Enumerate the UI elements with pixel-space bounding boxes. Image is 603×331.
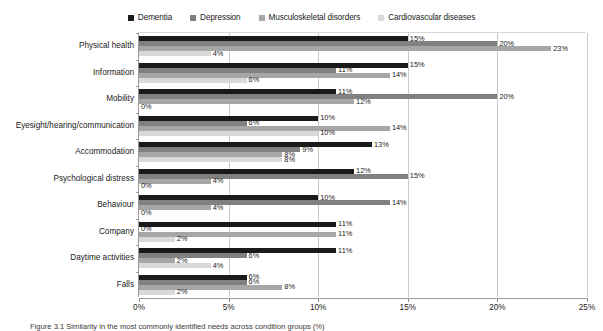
legend-swatch-icon (190, 15, 196, 21)
y-axis-tick (136, 272, 139, 273)
legend-item-musculoskeletal-disorders: Musculoskeletal disorders (259, 13, 361, 23)
y-axis-category-label: Daytime activities (70, 253, 134, 263)
x-gridline (587, 33, 588, 297)
y-axis-tick (136, 86, 139, 87)
y-axis-category-label: Company (99, 227, 134, 237)
legend-item-label: Musculoskeletal disorders (269, 13, 361, 23)
bar[interactable] (139, 51, 211, 56)
category-group: Accommodation13%9%8%8% (139, 142, 586, 162)
x-axis-tick-label: 15% (400, 303, 416, 313)
x-axis-tick-label: 20% (489, 303, 505, 313)
bar-row: 6% (139, 78, 587, 83)
bar-row: 0% (139, 184, 587, 189)
bar-row: 0% (139, 104, 587, 109)
legend-swatch-icon (259, 15, 265, 21)
x-axis-tick-label: 10% (310, 303, 326, 313)
bar-value-label: 0% (141, 103, 152, 111)
category-group: Falls6%6%8%2% (139, 275, 586, 295)
legend-item-label: Dementia (138, 13, 172, 23)
chart-legend: DementiaDepressionMusculoskeletal disord… (0, 10, 603, 26)
bar-row: 0% (139, 210, 587, 215)
y-axis-tick (136, 245, 139, 246)
bar-value-label: 10% (320, 129, 335, 137)
category-group: Daytime activities11%6%2%4% (139, 248, 586, 268)
y-axis-category-label: Behaviour (97, 200, 134, 210)
bar[interactable] (139, 263, 211, 268)
x-axis-tick (587, 298, 588, 302)
y-axis-category-label: Falls (117, 280, 134, 290)
bar[interactable] (139, 78, 247, 83)
figure-caption: Figure 3.1 Similarity in the most common… (30, 322, 590, 331)
bar-value-label: 6% (249, 76, 260, 84)
y-axis-category-label: Physical health (79, 41, 134, 51)
y-axis-category-label: Information (93, 68, 134, 78)
bar-value-label: 4% (213, 50, 224, 58)
y-axis-tick (136, 139, 139, 140)
x-axis-tick-label: 25% (579, 303, 595, 313)
legend-item-label: Cardiovascular diseases (388, 13, 475, 23)
category-group: Behaviour10%14%4%0% (139, 195, 586, 215)
y-axis-tick (136, 192, 139, 193)
bar-row: 10% (139, 131, 587, 136)
bar-row: 2% (139, 237, 587, 242)
category-group: Information15%11%14%6% (139, 63, 586, 83)
bar[interactable] (139, 290, 175, 295)
legend-swatch-icon (128, 15, 134, 21)
bar[interactable] (139, 157, 282, 162)
category-group: Psychological distress12%15%4%0% (139, 169, 586, 189)
bar-value-label: 4% (213, 262, 224, 270)
y-axis-category-label: Psychological distress (53, 174, 134, 184)
category-group: Eyesight/hearing/communication10%6%14%10… (139, 116, 586, 136)
chart-plot-area: 0%5%10%15%20%25%Physical health15%20%23%… (138, 32, 586, 297)
bar-row: 2% (139, 290, 587, 295)
legend-item-label: Depression (200, 13, 240, 23)
legend-item-depression: Depression (190, 13, 240, 23)
x-axis-tick-label: 5% (223, 303, 235, 313)
bar-value-label: 0% (141, 182, 152, 190)
category-group: Physical health15%20%23%4% (139, 36, 586, 56)
y-axis-category-label: Mobility (106, 94, 134, 104)
y-axis-tick (136, 113, 139, 114)
legend-swatch-icon (378, 15, 384, 21)
bar-value-label: 2% (177, 288, 188, 296)
bar-row: 4% (139, 51, 587, 56)
y-axis-tick (136, 60, 139, 61)
x-axis-tick-label: 0% (133, 303, 145, 313)
y-axis-tick (136, 219, 139, 220)
legend-item-cardiovascular-diseases: Cardiovascular diseases (378, 13, 475, 23)
bar-value-label: 0% (141, 209, 152, 217)
bar-value-label: 2% (177, 235, 188, 243)
x-axis-line (139, 298, 587, 299)
y-axis-tick (136, 33, 139, 34)
category-group: Mobility11%20%12%0% (139, 89, 586, 109)
y-axis-category-label: Eyesight/hearing/communication (16, 121, 134, 131)
y-axis-category-label: Accommodation (75, 147, 134, 157)
bar[interactable] (139, 131, 318, 136)
bar-row: 4% (139, 263, 587, 268)
legend-item-dementia: Dementia (128, 13, 172, 23)
category-group: Company11%0%11%2% (139, 222, 586, 242)
bar-value-label: 8% (284, 156, 295, 164)
bar-row: 8% (139, 157, 587, 162)
bar[interactable] (139, 237, 175, 242)
y-axis-tick (136, 166, 139, 167)
